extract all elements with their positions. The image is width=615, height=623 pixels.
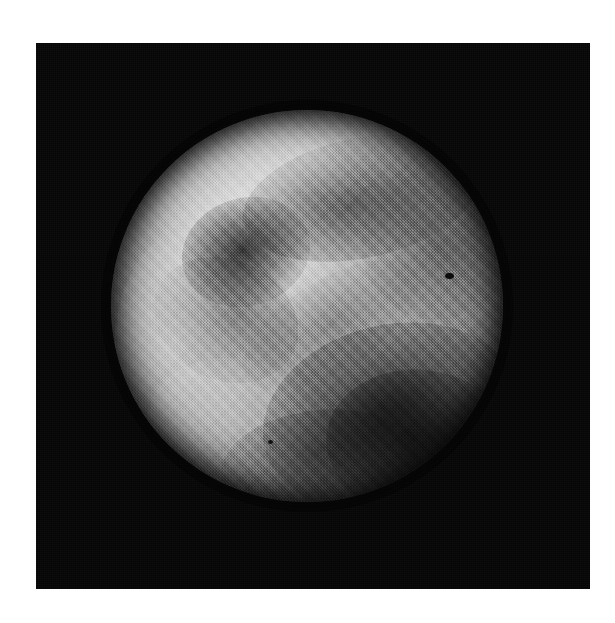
- planet-disk: [111, 110, 503, 502]
- dark-south-limb: [216, 400, 426, 502]
- image-plate: [36, 43, 590, 589]
- limb-darkening-overlay: [111, 110, 503, 502]
- dark-west-spot: [167, 181, 324, 324]
- bright-north-polar-hood: [231, 112, 411, 192]
- bright-northwest-limb: [111, 110, 390, 352]
- image-caption: [0, 0, 1, 1]
- dark-west-tail: [132, 233, 319, 407]
- dark-south-major: [242, 296, 503, 502]
- bright-southwest-limb: [126, 334, 353, 502]
- dark-northeast-limb: [361, 170, 503, 320]
- film-grain-overlay: [111, 110, 503, 502]
- dust-speck-northeast-icon: [445, 273, 454, 279]
- dust-speck-south-icon: [268, 440, 273, 444]
- halftone-screen-overlay: [111, 110, 503, 502]
- dark-mid-diagonal: [222, 234, 439, 416]
- page-root: [0, 0, 615, 623]
- bright-west-limb: [115, 230, 265, 460]
- dark-southeast: [316, 358, 503, 502]
- dark-north-band: [231, 114, 491, 281]
